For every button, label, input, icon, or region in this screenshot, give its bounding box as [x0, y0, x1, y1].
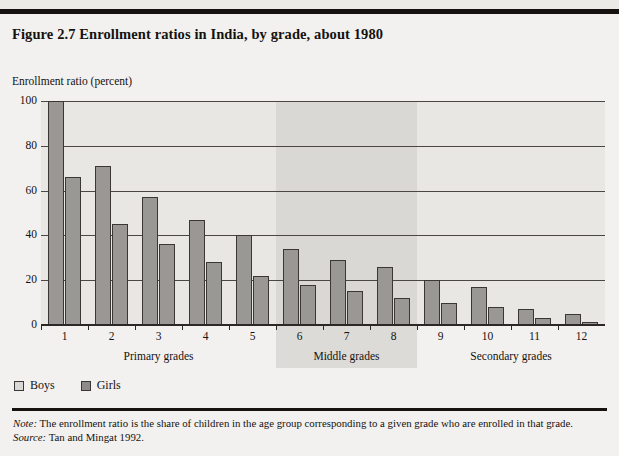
chart-legend: BoysGirls: [14, 378, 121, 393]
x-tick-label-11: 11: [529, 330, 540, 342]
x-tick-label-3: 3: [156, 330, 162, 342]
x-tick-label-1: 1: [62, 330, 68, 342]
x-tick-label-2: 2: [109, 330, 115, 342]
bar-grade-3-girls: [159, 244, 175, 325]
gridline-60: [41, 191, 605, 192]
group-label-middle-grades: Middle grades: [313, 350, 379, 362]
gridline-100: [41, 101, 605, 102]
top-rule: [0, 9, 619, 14]
bar-grade-2-boys: [95, 166, 111, 325]
x-axis-line: [41, 324, 605, 326]
bar-grade-4-girls: [206, 262, 222, 325]
bar-grade-3-boys: [142, 197, 158, 325]
bar-grade-7-boys: [330, 260, 346, 325]
note-line: Note: The enrollment ratio is the share …: [13, 417, 607, 431]
page-title: Figure 2.7 Enrollment ratios in India, b…: [12, 26, 383, 43]
x-axis-group-labels: Primary gradesMiddle gradesSecondary gra…: [41, 350, 605, 368]
bar-grade-5-boys: [236, 235, 252, 325]
source-line: Source: Tan and Mingat 1992.: [13, 431, 607, 445]
y-axis-title: Enrollment ratio (percent): [12, 75, 132, 87]
x-axis-tick-labels: 123456789101112: [41, 330, 605, 346]
group-label-primary-grades: Primary grades: [124, 350, 194, 362]
group-label-secondary-grades: Secondary grades: [470, 350, 551, 362]
bar-grade-1-girls: [65, 177, 81, 325]
x-tick-label-4: 4: [203, 330, 209, 342]
bar-grade-9-girls: [441, 303, 457, 325]
x-tick-label-8: 8: [391, 330, 397, 342]
bar-grade-6-boys: [283, 249, 299, 325]
source-text: Tan and Mingat 1992.: [49, 431, 144, 443]
y-tick-label-60: 60: [7, 185, 37, 197]
y-tick-label-80: 80: [7, 140, 37, 152]
bar-grade-10-boys: [471, 287, 487, 325]
y-axis-tick-labels: 020406080100: [5, 101, 37, 325]
y-tick-label-20: 20: [7, 274, 37, 286]
bar-grade-1-boys: [48, 101, 64, 325]
source-label: Source:: [13, 431, 46, 443]
y-tick-label-100: 100: [7, 95, 37, 107]
bar-grade-7-girls: [347, 291, 363, 325]
x-tick-label-12: 12: [576, 330, 588, 342]
bar-grade-5-girls: [253, 276, 269, 325]
legend-item-boys[interactable]: Boys: [14, 378, 55, 393]
bar-grade-11-boys: [518, 309, 534, 325]
footnotes: Note: The enrollment ratio is the share …: [13, 417, 607, 445]
bar-grade-8-girls: [394, 298, 410, 325]
x-tick-label-10: 10: [482, 330, 494, 342]
bar-grade-10-girls: [488, 307, 504, 325]
legend-swatch-girls-icon: [81, 381, 91, 391]
legend-label-boys: Boys: [30, 378, 55, 393]
x-tick-label-7: 7: [344, 330, 350, 342]
bar-grade-2-girls: [112, 224, 128, 325]
y-tick-label-40: 40: [7, 229, 37, 241]
legend-swatch-boys-icon: [14, 381, 24, 391]
bar-grade-9-boys: [424, 280, 440, 325]
legend-label-girls: Girls: [97, 378, 121, 393]
bar-grade-4-boys: [189, 220, 205, 325]
bar-grade-8-boys: [377, 267, 393, 325]
x-tick-label-9: 9: [438, 330, 444, 342]
bottom-rule: [12, 408, 607, 411]
legend-item-girls[interactable]: Girls: [81, 378, 121, 393]
y-tick-label-0: 0: [7, 319, 37, 331]
note-text: The enrollment ratio is the share of chi…: [40, 417, 573, 429]
bar-grade-6-girls: [300, 285, 316, 325]
gridline-80: [41, 146, 605, 147]
x-tick-label-5: 5: [250, 330, 256, 342]
scan-top-sliver: [0, 0, 619, 9]
note-label: Note:: [13, 417, 37, 429]
x-tick-label-6: 6: [297, 330, 303, 342]
chart-plot-area: [41, 101, 605, 325]
